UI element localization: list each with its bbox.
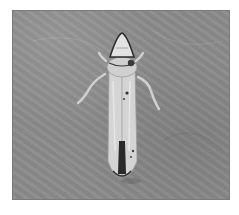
leafhopper-illustration	[13, 11, 229, 199]
thorax	[107, 57, 137, 77]
body	[108, 67, 137, 177]
insect-photo	[12, 10, 230, 200]
head	[110, 33, 134, 57]
